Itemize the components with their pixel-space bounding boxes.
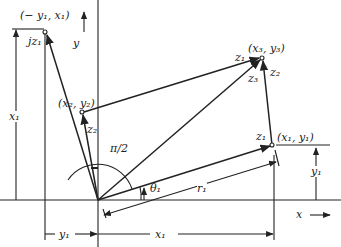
label-z1-point: (x₁, y₁) bbox=[277, 132, 314, 143]
label-z3-point: (x₃, y₃) bbox=[248, 43, 285, 54]
diagram-graphics bbox=[0, 0, 341, 247]
label-z2: z₂ bbox=[87, 124, 97, 135]
z3-vector bbox=[98, 60, 260, 200]
label-z2-point: (x₂, y₂) bbox=[58, 98, 95, 109]
label-y1-right: y₁ bbox=[311, 166, 322, 177]
label-z1: z₁ bbox=[256, 131, 266, 142]
z1-translated bbox=[84, 58, 259, 112]
label-r1: r₁ bbox=[197, 183, 207, 194]
label-x-axis: x bbox=[296, 209, 302, 220]
label-jz1-point: (− y₁, x₁) bbox=[20, 10, 70, 21]
label-right-angle: π/2 bbox=[110, 143, 128, 154]
label-z3: z₃ bbox=[248, 73, 258, 84]
label-z1-top: z₁ bbox=[235, 52, 245, 63]
label-theta1: θ₁ bbox=[150, 183, 161, 194]
label-jz1: jz₁ bbox=[28, 36, 42, 47]
label-x1-bottom: x₁ bbox=[155, 229, 166, 240]
label-y1-bottom: y₁ bbox=[59, 229, 70, 240]
label-y-axis: y bbox=[73, 38, 79, 49]
label-x1-left: x₁ bbox=[9, 111, 20, 122]
diagram: (− y₁, x₁) jz₁ y x₁ (x₂, y₂) z₂ π/2 θ₁ r… bbox=[0, 0, 341, 247]
label-z2-right: z₂ bbox=[270, 67, 280, 78]
